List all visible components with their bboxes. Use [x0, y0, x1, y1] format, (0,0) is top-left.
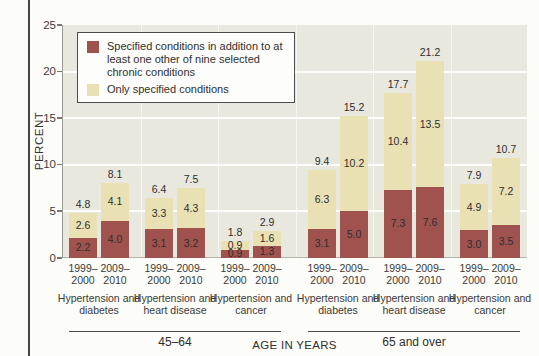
- bars-pair: 7.94.93.010.77.23.5: [460, 25, 520, 258]
- periods-row: 1999–20002009–2010: [460, 263, 520, 286]
- condition-label: Hypertension and diabetes: [55, 293, 143, 330]
- bars-pair: 17.710.47.321.213.57.6: [384, 25, 444, 258]
- period-label: 2009–2010: [340, 263, 368, 286]
- x-axis-title: AGE IN YEARS: [62, 339, 527, 351]
- condition-subgroup: 17.710.47.321.213.57.61999–20002009–2010…: [384, 25, 444, 330]
- bar-segment-light: 3.3: [145, 198, 173, 229]
- bar-light-value: 4.9: [467, 202, 482, 213]
- period-label: 2009–2010: [416, 263, 444, 286]
- bar-light-value: 4.1: [108, 196, 123, 207]
- bar-light-value: 6.3: [315, 194, 330, 205]
- period-line2: 2000: [310, 275, 333, 287]
- chart-figure: PERCENT Specified conditions in addition…: [0, 0, 539, 356]
- bar-dark-value: 5.0: [347, 229, 362, 240]
- y-tick-mark: [57, 71, 62, 73]
- period-label: 1999–2000: [384, 263, 412, 286]
- stacked-bar: 8.14.14.0: [101, 183, 129, 258]
- bar-light-value: 4.3: [184, 203, 199, 214]
- stacked-bar: 17.710.47.3: [384, 93, 412, 258]
- periods-row: 1999–20002009–2010: [145, 263, 205, 286]
- bar-dark-value: 3.1: [315, 238, 330, 249]
- bar-segment-dark: 3.5: [492, 225, 520, 258]
- legend-item-light: Only specified conditions: [87, 83, 285, 96]
- page-margin-rule: [28, 0, 30, 356]
- bar-light-value: 10.2: [344, 158, 364, 169]
- period-line1: 1999–: [220, 263, 249, 275]
- bar-light-value: 7.2: [499, 186, 514, 197]
- period-line1: 2009–: [100, 263, 129, 275]
- periods-row: 1999–20002009–2010: [308, 263, 368, 286]
- bar-segment-dark: 2.2: [69, 238, 97, 259]
- bar-dark-value: 7.6: [423, 217, 438, 228]
- period-line2: 2000: [147, 275, 170, 287]
- stacked-bar: 15.210.25.0: [340, 116, 368, 258]
- period-line2: 2000: [71, 275, 94, 287]
- stacked-bar: 9.46.33.1: [308, 170, 336, 258]
- bar-segment-dark: 3.1: [308, 229, 336, 258]
- bar-total-label: 2.9: [241, 216, 293, 228]
- bar-segment-light: 4.1: [101, 183, 129, 221]
- y-tick-label: 20: [32, 65, 56, 78]
- period-line1: 2009–: [176, 263, 205, 275]
- bar-light-value: 3.3: [152, 208, 167, 219]
- period-line2: 2000: [386, 275, 409, 287]
- y-tick-mark: [57, 24, 62, 26]
- period-line1: 1999–: [307, 263, 336, 275]
- period-line1: 2009–: [339, 263, 368, 275]
- stacked-bar: 7.54.33.2: [177, 188, 205, 258]
- condition-label: Hypertension and heart disease: [131, 293, 219, 330]
- bar-total-label: 21.2: [404, 46, 456, 58]
- stacked-bar: 6.43.33.1: [145, 198, 173, 258]
- bar-segment-light: 4.3: [177, 188, 205, 228]
- bar-segment-dark: 3.1: [145, 229, 173, 258]
- bar-total-label: 7.5: [165, 173, 217, 185]
- period-label: 1999–2000: [145, 263, 173, 286]
- stacked-bar: 10.77.23.5: [492, 158, 520, 258]
- bar-segment-dark: 5.0: [340, 211, 368, 258]
- bar-segment-dark: 3.0: [460, 230, 488, 258]
- periods-row: 1999–20002009–2010: [69, 263, 129, 286]
- stacked-bar: 2.91.61.3: [253, 231, 281, 258]
- bar-dark-value: 3.5: [499, 236, 514, 247]
- period-label: 1999–2000: [69, 263, 97, 286]
- stacked-bar: 21.213.57.6: [416, 61, 444, 258]
- bar-light-value: 1.6: [260, 233, 275, 244]
- condition-subgroup: 9.46.33.115.210.25.01999–20002009–2010Hy…: [308, 25, 368, 330]
- condition-label: Hypertension and cancer: [446, 293, 534, 330]
- legend-label: Specified conditions in addition to at l…: [107, 40, 285, 79]
- bars-pair: 9.46.33.115.210.25.0: [308, 25, 368, 258]
- bar-total-label: 15.2: [328, 101, 380, 113]
- period-line2: 2010: [494, 275, 517, 287]
- bar-total-label: 10.7: [480, 143, 532, 155]
- bar-light-value: 2.6: [76, 220, 91, 231]
- bar-total-label: 8.1: [89, 168, 141, 180]
- period-line1: 2009–: [252, 263, 281, 275]
- period-label: 2009–2010: [253, 263, 281, 286]
- period-line1: 1999–: [144, 263, 173, 275]
- condition-label: Hypertension and heart disease: [370, 293, 458, 330]
- period-line2: 2000: [462, 275, 485, 287]
- legend-item-dark: Specified conditions in addition to at l…: [87, 40, 285, 79]
- bar-segment-light: 13.5: [416, 61, 444, 187]
- y-tick-mark: [57, 210, 62, 212]
- legend-label: Only specified conditions: [107, 83, 229, 96]
- y-tick-label: 25: [32, 19, 56, 32]
- legend-swatch-dark-icon: [87, 41, 99, 53]
- group-axis-line: [69, 331, 281, 332]
- age-group: 9.46.33.115.210.25.01999–20002009–2010Hy…: [308, 25, 520, 349]
- bar-dark-value: 7.3: [391, 218, 406, 229]
- bar-dark-value: 3.0: [467, 239, 482, 250]
- period-label: 1999–2000: [221, 263, 249, 286]
- period-label: 2009–2010: [101, 263, 129, 286]
- stacked-bar: 7.94.93.0: [460, 184, 488, 258]
- bar-segment-dark: 7.6: [416, 187, 444, 258]
- legend: Specified conditions in addition to at l…: [77, 32, 295, 103]
- bar-segment-light: 10.4: [384, 93, 412, 190]
- period-line2: 2000: [223, 275, 246, 287]
- bar-segment-light: 10.2: [340, 116, 368, 211]
- y-tick-mark: [57, 257, 62, 259]
- bar-segment-light: 1.6: [253, 231, 281, 246]
- bar-dark-value: 1.3: [260, 246, 275, 257]
- period-line1: 2009–: [491, 263, 520, 275]
- period-line2: 2010: [103, 275, 126, 287]
